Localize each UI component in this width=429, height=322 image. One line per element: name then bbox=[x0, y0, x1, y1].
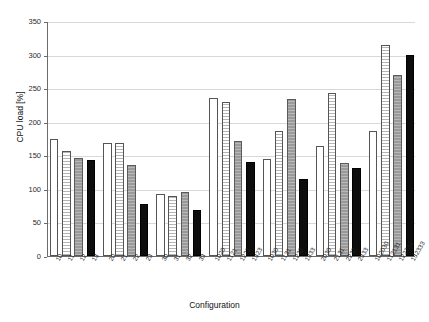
bar bbox=[299, 179, 308, 256]
bar bbox=[316, 146, 325, 256]
bar bbox=[234, 141, 243, 256]
bar bbox=[193, 210, 202, 256]
bar bbox=[340, 163, 349, 256]
plot-area bbox=[47, 22, 415, 257]
bar bbox=[406, 55, 415, 256]
y-tick-mark bbox=[44, 123, 47, 124]
bar bbox=[115, 143, 124, 256]
cpu-load-bar-chart: 050100150200250300350 101112132021222330… bbox=[0, 0, 429, 322]
bar bbox=[222, 102, 231, 256]
bar bbox=[74, 158, 83, 256]
bar bbox=[393, 75, 402, 256]
bar bbox=[103, 143, 112, 256]
bar bbox=[275, 131, 284, 256]
bar bbox=[156, 194, 165, 256]
bar bbox=[87, 160, 96, 256]
y-tick-mark bbox=[44, 190, 47, 191]
bar bbox=[181, 192, 190, 256]
bar bbox=[263, 159, 272, 256]
x-tick-label: 10 bbox=[55, 253, 64, 262]
bar bbox=[381, 45, 390, 257]
y-tick-label: 100 bbox=[0, 186, 41, 194]
x-tick-label: 20 bbox=[108, 253, 117, 262]
bar bbox=[62, 151, 71, 256]
y-tick-label: 350 bbox=[0, 18, 41, 26]
bar bbox=[50, 139, 59, 256]
y-tick-label: 50 bbox=[0, 219, 41, 227]
bar bbox=[328, 93, 337, 256]
bar bbox=[127, 165, 136, 256]
x-tick-label: 23 bbox=[145, 253, 154, 262]
y-tick-label: 0 bbox=[0, 253, 41, 261]
y-tick-mark bbox=[44, 56, 47, 57]
x-tick-label: 11 bbox=[67, 253, 76, 262]
bar bbox=[246, 162, 255, 256]
y-axis-title: CPU load [%] bbox=[15, 57, 25, 177]
bar-series bbox=[48, 22, 415, 256]
x-axis-title: Configuration bbox=[0, 300, 429, 310]
bar bbox=[369, 131, 378, 256]
bar bbox=[168, 196, 177, 256]
x-axis-tick-labels: 1011121320212223303132331020112112221323… bbox=[47, 259, 415, 299]
y-tick-mark bbox=[44, 156, 47, 157]
y-tick-mark bbox=[44, 89, 47, 90]
bar bbox=[140, 204, 149, 256]
x-tick-label: 33 bbox=[198, 253, 207, 262]
y-tick-mark bbox=[44, 223, 47, 224]
bar bbox=[352, 168, 361, 256]
y-tick-mark bbox=[44, 257, 47, 258]
x-tick-label: 30 bbox=[161, 253, 170, 262]
bar bbox=[287, 99, 296, 256]
y-tick-mark bbox=[44, 22, 47, 23]
bar bbox=[209, 98, 218, 256]
